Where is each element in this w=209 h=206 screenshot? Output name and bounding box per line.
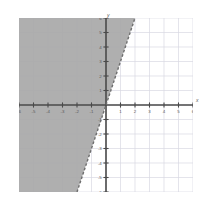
svg-text:-4: -4 bbox=[98, 161, 102, 166]
x-axis-letter: x bbox=[196, 98, 199, 103]
svg-text:6: 6 bbox=[192, 109, 193, 114]
svg-text:-4: -4 bbox=[46, 109, 50, 114]
graph-figure: -6-5-4-3-2-1123456-6-5-4-3-2-1123456 y x bbox=[0, 0, 209, 206]
svg-text:-2: -2 bbox=[98, 132, 102, 137]
svg-text:-6: -6 bbox=[98, 190, 102, 192]
svg-text:-5: -5 bbox=[32, 109, 36, 114]
svg-text:-2: -2 bbox=[75, 109, 79, 114]
coordinate-plane: -6-5-4-3-2-1123456-6-5-4-3-2-1123456 bbox=[19, 18, 193, 192]
svg-text:-3: -3 bbox=[98, 146, 102, 151]
svg-text:-1: -1 bbox=[90, 109, 94, 114]
svg-text:-5: -5 bbox=[98, 175, 102, 180]
plot-svg: -6-5-4-3-2-1123456-6-5-4-3-2-1123456 bbox=[19, 18, 193, 192]
svg-text:-3: -3 bbox=[61, 109, 65, 114]
